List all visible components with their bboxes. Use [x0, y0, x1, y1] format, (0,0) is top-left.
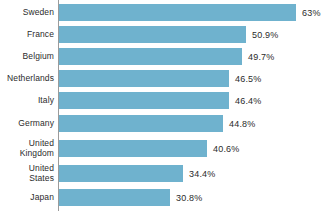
- bar-row: United Kingdom40.6%: [0, 140, 322, 157]
- bar-row: Sweden63%: [0, 4, 322, 21]
- bar-track: [59, 4, 296, 21]
- bar-value-label: 44.8%: [229, 119, 256, 129]
- bar-row: Japan30.8%: [0, 189, 322, 206]
- bar-track: [59, 165, 183, 182]
- bar: [59, 189, 170, 206]
- bar: [59, 115, 223, 132]
- bar-track: [59, 140, 207, 157]
- bar-row: Belgium49.7%: [0, 48, 322, 65]
- bar: [59, 26, 246, 43]
- bar-value-label: 50.9%: [252, 30, 279, 40]
- bar-row: France50.9%: [0, 26, 322, 43]
- category-label: Italy: [0, 96, 54, 106]
- bar-value-label: 63%: [302, 8, 321, 18]
- category-label: Sweden: [0, 8, 54, 18]
- bar-value-label: 34.4%: [189, 169, 216, 179]
- bar-row: United States34.4%: [0, 165, 322, 182]
- category-label: Netherlands: [0, 74, 54, 84]
- bar: [59, 48, 242, 65]
- bar: [59, 92, 229, 109]
- bar-track: [59, 48, 242, 65]
- bar-track: [59, 70, 229, 87]
- bar: [59, 4, 296, 21]
- bar-value-label: 46.5%: [235, 74, 262, 84]
- category-label: United Kingdom: [0, 139, 54, 158]
- bar-value-label: 46.4%: [235, 96, 262, 106]
- bar: [59, 165, 183, 182]
- bar-row: Italy46.4%: [0, 92, 322, 109]
- bar-track: [59, 189, 170, 206]
- bar: [59, 140, 207, 157]
- bar-rows-container: Sweden63%France50.9%Belgium49.7%Netherla…: [0, 0, 322, 211]
- bar-value-label: 49.7%: [248, 52, 275, 62]
- bar-track: [59, 115, 223, 132]
- category-label: Belgium: [0, 52, 54, 62]
- category-label: United States: [0, 164, 54, 183]
- category-label: Japan: [0, 193, 54, 203]
- bar: [59, 70, 229, 87]
- bar-value-label: 30.8%: [176, 193, 203, 203]
- bar-row: Netherlands46.5%: [0, 70, 322, 87]
- bar-track: [59, 26, 246, 43]
- horizontal-bar-chart: Sweden63%France50.9%Belgium49.7%Netherla…: [0, 0, 322, 211]
- category-label: Germany: [0, 119, 54, 129]
- bar-row: Germany44.8%: [0, 115, 322, 132]
- category-label: France: [0, 30, 54, 40]
- bar-track: [59, 92, 229, 109]
- bar-value-label: 40.6%: [213, 144, 240, 154]
